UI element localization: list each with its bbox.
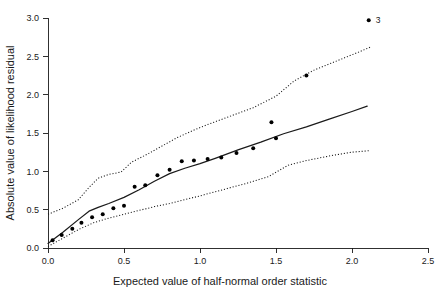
data-point (192, 159, 196, 163)
data-point (251, 146, 255, 150)
data-point (234, 151, 238, 155)
x-axis-title: Expected value of half-normal order stat… (113, 275, 327, 287)
y-tick-label: 0.5 (26, 205, 39, 215)
y-axis-title: Absolute value of likelihood residual (4, 46, 16, 221)
x-tick-label: 1.5 (270, 256, 283, 266)
data-points-group (51, 18, 371, 242)
data-point (269, 120, 273, 124)
x-axis-ticks: 0.00.51.01.52.02.5 (42, 248, 435, 266)
data-point (367, 18, 371, 22)
point-annotation-label: 3 (376, 15, 381, 25)
x-tick-label: 0.0 (42, 256, 55, 266)
data-point (206, 157, 210, 161)
upper-envelope-curve (48, 47, 370, 214)
data-point (274, 136, 278, 140)
y-tick-label: 0.0 (26, 243, 39, 253)
x-tick-label: 0.5 (118, 256, 131, 266)
median-curve-group (48, 106, 367, 243)
data-point (219, 156, 223, 160)
plot-canvas: 3 0.00.51.01.52.02.5 0.00.51.01.52.02.53… (0, 0, 440, 293)
data-point (111, 206, 115, 210)
y-tick-label: 2.0 (26, 90, 39, 100)
y-tick-label: 1.5 (26, 128, 39, 138)
y-tick-label: 1.0 (26, 167, 39, 177)
median-curve (48, 106, 367, 243)
data-point (79, 221, 83, 225)
data-point (101, 212, 105, 216)
data-point (70, 227, 74, 231)
lower-envelope-curve (48, 151, 370, 247)
data-point (133, 185, 137, 189)
x-tick-label: 1.0 (194, 256, 207, 266)
data-point (122, 204, 126, 208)
half-normal-plot-figure: 3 0.00.51.01.52.02.5 0.00.51.01.52.02.53… (0, 0, 440, 293)
x-axis: 0.00.51.01.52.02.5 (42, 248, 435, 266)
data-point (51, 238, 55, 242)
data-point (304, 74, 308, 78)
envelope-curves-group (48, 47, 370, 246)
y-axis-ticks: 0.00.51.01.52.02.53.0 (26, 13, 48, 253)
y-tick-label: 3.0 (26, 13, 39, 23)
data-point (168, 168, 172, 172)
x-tick-label: 2.0 (346, 256, 359, 266)
y-axis: 0.00.51.01.52.02.53.0 (26, 13, 48, 253)
x-tick-label: 2.5 (422, 256, 435, 266)
data-point (180, 159, 184, 163)
data-point (143, 183, 147, 187)
y-tick-label: 2.5 (26, 52, 39, 62)
data-point (60, 233, 64, 237)
data-point (90, 215, 94, 219)
data-point (155, 173, 159, 177)
point-annotations-group: 3 (376, 15, 381, 25)
